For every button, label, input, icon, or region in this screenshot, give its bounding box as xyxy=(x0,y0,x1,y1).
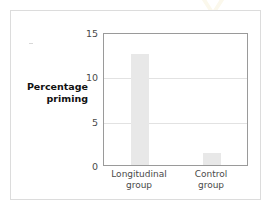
bar-control-group xyxy=(203,153,221,165)
plot-area xyxy=(103,33,248,166)
x-axis-tick-labels: Longitudinal group Control group xyxy=(103,169,248,199)
x-tick-label-line-1: Control xyxy=(195,169,228,179)
bar-chart: Percentage priming 15 10 5 0 Longitudina… xyxy=(0,0,271,215)
y-tick-label-5: 5 xyxy=(58,118,98,128)
y-tick-label-15: 15 xyxy=(58,29,98,39)
x-tick-label-line-2: group xyxy=(126,180,152,190)
y-tick-label-10: 10 xyxy=(58,73,98,83)
x-tick-label-longitudinal-group: Longitudinal group xyxy=(92,169,186,191)
x-tick-label-line-1: Longitudinal xyxy=(111,169,166,179)
bar-series xyxy=(104,34,247,165)
x-tick-label-line-2: group xyxy=(198,180,224,190)
y-axis-tick-labels: 15 10 5 0 xyxy=(58,33,98,166)
bar-longitudinal-group xyxy=(131,54,149,165)
x-tick-label-control-group: Control group xyxy=(179,169,243,191)
